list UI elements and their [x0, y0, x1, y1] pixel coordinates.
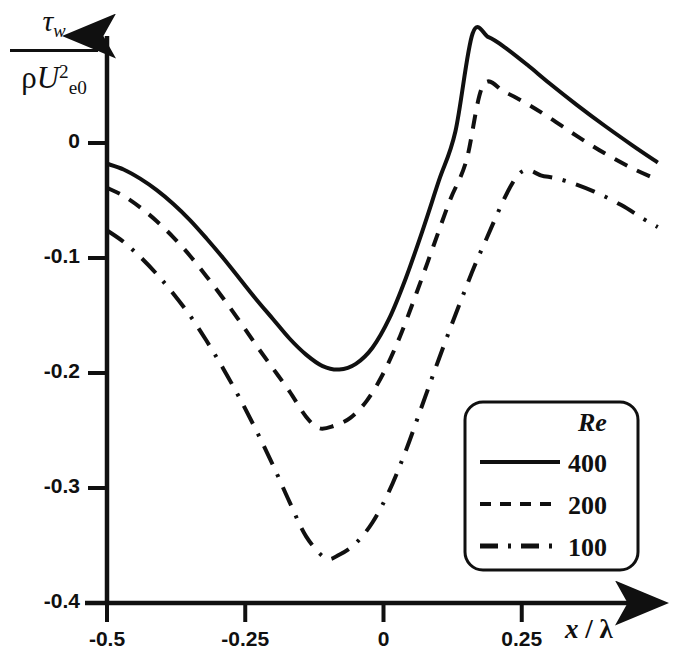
x-slash: / [585, 614, 593, 644]
legend-title: Re [578, 408, 607, 438]
legend-label-200: 200 [568, 491, 607, 521]
y-tick-label-4: -0.4 [0, 589, 80, 613]
x-tick-label-2: 0 [324, 627, 444, 651]
y-tick-label-1: -0.1 [0, 244, 80, 268]
y-axis-numerator: τw [8, 4, 100, 48]
chart-figure: τw ρU2e0 0 -0.1 -0.2 -0.3 - [0, 0, 687, 670]
rho-symbol: ρ [21, 60, 36, 95]
y-tick-marks [88, 143, 107, 603]
x-tick-label-1: -0.25 [185, 627, 305, 651]
curve-re-200 [107, 81, 658, 428]
u-exponent: 2 [59, 61, 69, 82]
plot-area [0, 0, 687, 670]
legend-label-400: 400 [568, 449, 607, 479]
legend-label-100: 100 [568, 533, 607, 563]
x-axis-title: x / λ [565, 614, 613, 645]
u-subscript: e0 [69, 76, 87, 97]
tau-subscript: w [53, 20, 65, 41]
y-tick-label-0: 0 [0, 129, 80, 153]
y-axis-label: τw ρU2e0 [8, 4, 100, 105]
y-axis-denominator: ρU2e0 [8, 54, 100, 106]
y-tick-label-2: -0.2 [0, 359, 80, 383]
x-tick-label-3: 0.25 [462, 627, 582, 651]
fraction-bar [10, 49, 98, 52]
tau-symbol: τ [42, 4, 53, 37]
lambda-symbol: λ [600, 614, 613, 644]
x-tick-label-0: -0.5 [47, 627, 167, 651]
y-tick-label-3: -0.3 [0, 474, 80, 498]
u-symbol: U [37, 60, 59, 95]
x-variable: x [565, 614, 579, 644]
